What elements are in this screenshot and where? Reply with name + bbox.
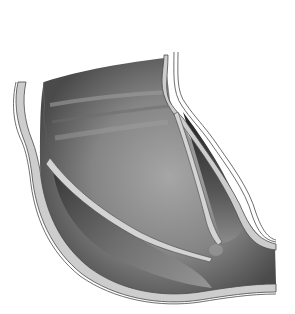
top-fade <box>0 40 295 100</box>
exit-fade <box>240 236 295 306</box>
valve-commissure <box>209 244 223 256</box>
vein-valve-illustration <box>0 0 295 314</box>
